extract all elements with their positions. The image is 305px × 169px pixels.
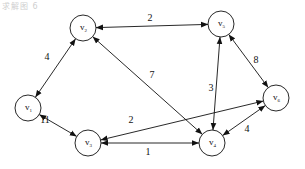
- edge-weight-label: 1: [146, 146, 151, 157]
- edge-weight-label: 2: [129, 114, 134, 125]
- edge-weight-label: 8: [254, 54, 259, 65]
- edge-weight-label: 2: [148, 12, 153, 23]
- edge-v5-v4: [213, 37, 220, 130]
- edge-weight-label: 11: [40, 114, 50, 125]
- node-v2: v2: [70, 15, 96, 41]
- edge-v1-v2: [35, 39, 75, 98]
- edge-v3-v6: [101, 101, 264, 140]
- edge-v5-v6: [229, 34, 268, 87]
- node-v3: v3: [75, 130, 101, 156]
- edge-v2-v5: [96, 24, 208, 27]
- nodes-layer: v1v2v3v4v5v6: [15, 11, 289, 156]
- edge-weight-label: 4: [245, 123, 250, 134]
- edge-weight-label: 4: [45, 51, 50, 62]
- node-v4: v4: [199, 130, 225, 156]
- edges-layer: [35, 24, 268, 143]
- edge-weight-label: 3: [209, 82, 214, 93]
- node-v1: v1: [15, 95, 41, 121]
- node-v5: v5: [208, 11, 234, 37]
- graph-diagram: 4211738214 v1v2v3v4v5v6: [0, 0, 305, 169]
- edge-weight-label: 7: [150, 69, 155, 80]
- node-v6: v6: [263, 85, 289, 111]
